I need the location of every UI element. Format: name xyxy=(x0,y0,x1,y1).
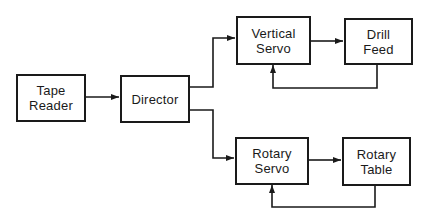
vertical-servo-label-line1: Vertical xyxy=(251,26,295,41)
rotary-servo-label-line2: Servo xyxy=(255,161,290,176)
rotary-servo-block: Rotary Servo xyxy=(235,137,309,185)
edge-director-to-rotary-servo xyxy=(190,110,234,158)
drill-feed-label-line2: Feed xyxy=(363,42,393,57)
rotary-table-label-line1: Rotary xyxy=(357,147,397,162)
drill-feed-block: Drill Feed xyxy=(344,18,413,65)
tape-reader-block: Tape Reader xyxy=(16,74,86,122)
block-diagram: Tape Reader Director Vertical Servo Dril… xyxy=(0,0,429,219)
rotary-table-label-line2: Table xyxy=(360,162,392,177)
drill-feed-label-line1: Drill xyxy=(367,27,390,42)
edge-drill-feed-feedback xyxy=(273,65,377,88)
rotary-servo-label-line1: Rotary xyxy=(252,146,292,161)
edge-rotary-table-feedback xyxy=(272,185,375,207)
director-label: Director xyxy=(131,92,178,107)
director-block: Director xyxy=(120,75,190,123)
tape-reader-label-line1: Tape xyxy=(37,83,66,98)
vertical-servo-label-line2: Servo xyxy=(256,41,291,56)
tape-reader-label-line2: Reader xyxy=(29,98,73,113)
edge-director-to-vertical-servo xyxy=(190,38,235,87)
rotary-table-block: Rotary Table xyxy=(342,137,411,186)
vertical-servo-block: Vertical Servo xyxy=(236,16,311,65)
